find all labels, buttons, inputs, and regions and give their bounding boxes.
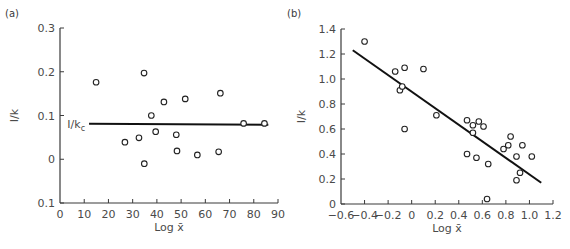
y-tick-label: 0.1 bbox=[38, 110, 56, 123]
x-tick-label: 0 bbox=[57, 208, 64, 221]
data-point bbox=[505, 142, 511, 148]
panel-label: (a) bbox=[5, 8, 19, 19]
x-tick-label: −0.2 bbox=[375, 209, 402, 222]
x-axis-title: Log x̄ bbox=[432, 222, 462, 235]
y-tick-label: 0.1 bbox=[38, 197, 56, 210]
data-point bbox=[514, 154, 520, 160]
data-point bbox=[182, 96, 188, 102]
data-point bbox=[149, 113, 155, 119]
data-point bbox=[174, 148, 180, 154]
x-tick-label: 0.8 bbox=[497, 209, 515, 222]
panel-a-chart: (a)0.100.10.20.30102030405060708090I/kLo… bbox=[5, 8, 285, 234]
y-tick-label: 0.3 bbox=[38, 22, 56, 35]
data-point bbox=[218, 90, 224, 96]
x-tick-label: 0 bbox=[408, 209, 415, 222]
data-point bbox=[484, 196, 490, 202]
x-tick-label: 50 bbox=[174, 208, 188, 221]
x-tick-label: 0.6 bbox=[474, 209, 492, 222]
x-tick-label: 1.2 bbox=[544, 209, 562, 222]
x-tick-label: 10 bbox=[77, 208, 91, 221]
data-point bbox=[216, 149, 222, 155]
data-point bbox=[485, 161, 491, 167]
x-tick-label: 30 bbox=[126, 208, 140, 221]
y-axis-title: I/k bbox=[295, 109, 308, 123]
data-point bbox=[195, 152, 201, 158]
x-tick-label: 80 bbox=[247, 208, 261, 221]
y-axis-title: I/k bbox=[8, 108, 21, 122]
data-point bbox=[402, 65, 408, 71]
data-point bbox=[262, 121, 268, 127]
y-tick-label: 1.0 bbox=[319, 73, 337, 86]
data-point bbox=[476, 119, 482, 125]
y-tick-label: 0.2 bbox=[38, 66, 56, 79]
x-tick-label: 70 bbox=[223, 208, 237, 221]
data-point bbox=[434, 112, 440, 118]
data-point bbox=[141, 161, 147, 167]
figure: (a)0.100.10.20.30102030405060708090I/kLo… bbox=[0, 0, 570, 249]
y-tick-label: 1.2 bbox=[319, 48, 337, 61]
data-point bbox=[93, 79, 99, 85]
data-point bbox=[161, 99, 167, 105]
x-tick-label: 40 bbox=[150, 208, 164, 221]
data-point bbox=[136, 135, 142, 141]
data-point bbox=[464, 151, 470, 157]
data-point bbox=[464, 117, 470, 123]
panel-label: (b) bbox=[287, 8, 301, 19]
data-point bbox=[402, 126, 408, 132]
data-point bbox=[517, 170, 523, 176]
data-point bbox=[392, 69, 398, 75]
x-tick-label: 0.2 bbox=[426, 209, 444, 222]
data-point bbox=[514, 177, 520, 183]
y-tick-label: 0.6 bbox=[319, 123, 337, 136]
data-point bbox=[508, 134, 514, 140]
x-tick-label: 90 bbox=[271, 208, 285, 221]
data-point bbox=[141, 70, 147, 76]
x-axis-title: Log x̄ bbox=[154, 221, 184, 234]
data-point bbox=[173, 132, 179, 138]
x-tick-label: 1.0 bbox=[521, 209, 539, 222]
data-point bbox=[474, 155, 480, 161]
data-point bbox=[362, 39, 368, 45]
y-tick-label: 0.4 bbox=[319, 148, 337, 161]
data-point bbox=[520, 142, 526, 148]
y-tick-label: 0.2 bbox=[319, 173, 337, 186]
reference-line-label: I/kc bbox=[67, 118, 85, 133]
data-point bbox=[122, 139, 128, 145]
regression-line bbox=[353, 50, 541, 183]
y-tick-label: 1.4 bbox=[319, 23, 337, 36]
data-point bbox=[481, 124, 487, 130]
x-tick-label: 20 bbox=[101, 208, 115, 221]
x-tick-label: 0.4 bbox=[450, 209, 468, 222]
y-tick-label: 0 bbox=[48, 153, 55, 166]
data-point bbox=[241, 121, 247, 127]
data-point bbox=[470, 130, 476, 136]
data-point bbox=[399, 84, 405, 90]
panel-b-chart: (b)00.20.40.60.81.01.21.4−0.6−0.4−0.200.… bbox=[287, 8, 562, 235]
data-point bbox=[529, 154, 535, 160]
data-point bbox=[153, 129, 159, 135]
data-point bbox=[470, 122, 476, 128]
x-tick-label: 60 bbox=[198, 208, 212, 221]
y-tick-label: 0.8 bbox=[319, 98, 337, 111]
data-point bbox=[421, 66, 427, 72]
